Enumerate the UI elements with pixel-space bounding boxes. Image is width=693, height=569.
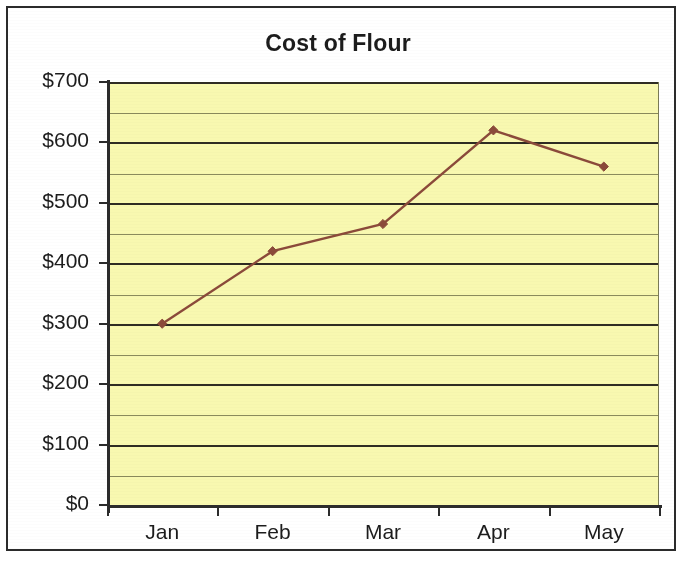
y-axis-tick-label: $700: [0, 68, 89, 92]
x-axis-tick: [107, 505, 109, 516]
y-axis-tick-label: $400: [0, 249, 89, 273]
chart-frame: Cost of Flour $0$100$200$300$400$500$600…: [6, 6, 676, 551]
y-axis-tick-label: $200: [0, 370, 89, 394]
x-axis-tick-label: Jan: [107, 520, 217, 544]
x-axis-tick: [438, 505, 440, 516]
y-axis-tick-label: $600: [0, 128, 89, 152]
series-markers: [158, 126, 609, 329]
x-axis-tick: [549, 505, 551, 516]
series-line-cost-of-flour: [107, 82, 659, 505]
x-axis-tick: [217, 505, 219, 516]
y-axis-tick-label: $0: [0, 491, 89, 515]
x-axis-tick: [328, 505, 330, 516]
y-axis-tick-label: $100: [0, 431, 89, 455]
x-axis-tick-label: Apr: [438, 520, 548, 544]
y-axis-tick-label: $500: [0, 189, 89, 213]
data-point-marker: [599, 162, 608, 171]
x-axis-tick-label: Mar: [328, 520, 438, 544]
x-axis-tick-label: May: [549, 520, 659, 544]
x-axis-tick: [659, 505, 661, 516]
x-axis-tick-label: Feb: [218, 520, 328, 544]
chart-title: Cost of Flour: [8, 30, 668, 57]
y-axis-tick-label: $300: [0, 310, 89, 334]
x-axis-line: [107, 505, 662, 508]
